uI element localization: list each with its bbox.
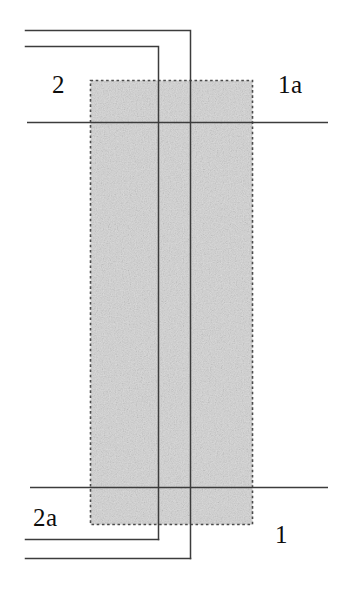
reference-label-2: 2 xyxy=(52,72,65,97)
reference-label-1: 1 xyxy=(275,522,288,547)
reference-label-2a: 2a xyxy=(33,505,58,530)
figure-canvas: 2 1a 2a 1 xyxy=(0,0,346,593)
reference-label-1a: 1a xyxy=(278,72,303,97)
shaded-block xyxy=(91,81,253,525)
